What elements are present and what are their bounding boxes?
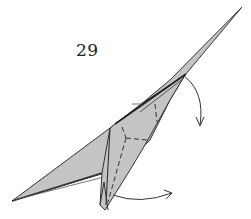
swing-right-arrow	[113, 193, 172, 200]
origami-diagram	[0, 0, 251, 219]
central-flap	[100, 75, 185, 210]
upper-tip-flap	[140, 7, 242, 105]
fold-down-arrow	[184, 76, 201, 125]
